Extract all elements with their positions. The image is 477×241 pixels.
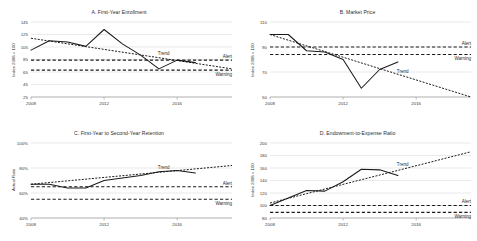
annotation-trend: Trend xyxy=(396,69,408,74)
y-tick-label: 50 xyxy=(262,95,267,100)
panel-a: A. First-Year Enrollment Index 2008 = 10… xyxy=(0,0,238,120)
x-tick-label: 2012 xyxy=(99,101,109,106)
series-trend xyxy=(270,151,471,202)
y-tick-label: 45 xyxy=(23,82,28,87)
x-tick-label: 2008 xyxy=(265,222,275,227)
y-tick-label: 125 xyxy=(21,32,29,37)
series-actual xyxy=(270,169,398,205)
annotation-warning: Warning xyxy=(215,200,232,205)
annotation-warning: Warning xyxy=(454,213,471,218)
y-tick-label: 85 xyxy=(23,57,28,62)
series-trend xyxy=(31,38,232,69)
y-tick-label: 70 xyxy=(262,70,267,75)
y-tick-label: 90 xyxy=(262,45,267,50)
y-tick-label: 145 xyxy=(21,20,29,25)
x-tick-label: 2012 xyxy=(338,222,348,227)
annotation-alert: Alert xyxy=(223,180,233,185)
annotation-trend: Trend xyxy=(396,161,408,166)
y-tick-label: 180 xyxy=(259,153,267,158)
y-tick-label: 140 xyxy=(259,178,267,183)
x-tick-label: 2016 xyxy=(172,222,182,227)
x-tick-label: 2008 xyxy=(26,101,36,106)
panel-d: D. Endowment-to-Expense Ratio Index 2008… xyxy=(239,121,477,241)
y-tick-label: 100% xyxy=(17,140,28,145)
chart-grid: A. First-Year Enrollment Index 2008 = 10… xyxy=(0,0,477,241)
y-tick-label: 80 xyxy=(262,215,267,220)
y-tick-label: 40% xyxy=(19,215,28,220)
annotation-warning: Warning xyxy=(215,72,232,77)
annotation-alert: Alert xyxy=(223,54,233,59)
panel-b-plot: 110907050200820122016TrendAlertWarning xyxy=(239,0,477,120)
y-tick-label: 25 xyxy=(23,95,28,100)
series-trend xyxy=(31,165,232,184)
x-tick-label: 2016 xyxy=(411,222,421,227)
panel-c-plot: 100%80%60%40%200820122016TrendAlertWarni… xyxy=(0,121,238,241)
y-tick-label: 100 xyxy=(259,203,267,208)
annotation-warning: Warning xyxy=(454,56,471,61)
x-tick-label: 2012 xyxy=(99,222,109,227)
annotation-trend: Trend xyxy=(158,51,170,56)
x-tick-label: 2008 xyxy=(26,222,36,227)
series-trend xyxy=(270,35,471,98)
panel-b: B. Market Price Index 2008 = 100 1109070… xyxy=(239,0,477,120)
panel-d-plot: 20018016014012010080200820122016TrendAle… xyxy=(239,121,477,241)
y-tick-label: 120 xyxy=(259,190,267,195)
series-actual xyxy=(31,170,195,188)
series-actual xyxy=(270,35,398,89)
x-tick-label: 2016 xyxy=(411,101,421,106)
y-tick-label: 110 xyxy=(260,20,268,25)
y-tick-label: 160 xyxy=(259,165,267,170)
x-tick-label: 2008 xyxy=(265,101,275,106)
series-actual xyxy=(31,30,195,69)
x-tick-label: 2016 xyxy=(172,101,182,106)
annotation-alert: Alert xyxy=(461,41,471,46)
y-tick-label: 105 xyxy=(21,45,29,50)
y-tick-label: 200 xyxy=(259,140,267,145)
y-tick-label: 60% xyxy=(19,190,28,195)
annotation-alert: Alert xyxy=(461,199,471,204)
annotation-trend: Trend xyxy=(158,164,170,169)
y-tick-label: 80% xyxy=(19,165,28,170)
panel-a-plot: 14512510585654525200820122016TrendAlertW… xyxy=(0,0,238,120)
x-tick-label: 2012 xyxy=(338,101,348,106)
y-tick-label: 65 xyxy=(23,70,28,75)
panel-c: C. First-Year to Second-Year Retention A… xyxy=(0,121,238,241)
